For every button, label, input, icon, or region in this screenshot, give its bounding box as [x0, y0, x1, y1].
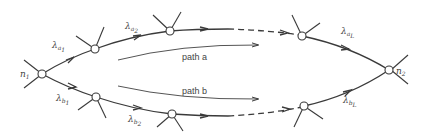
edge-b-dashed [228, 107, 302, 116]
label-n2: n2 [396, 66, 406, 77]
node-n2 [385, 66, 393, 74]
path-a-label: path a [182, 52, 207, 62]
node-a2 [166, 27, 174, 35]
label-n1: n1 [20, 69, 30, 80]
label-lambda-a2: λa2 [124, 21, 138, 34]
arrow-a1-icon [66, 57, 74, 63]
label-lambda-a1: λa1 [51, 40, 65, 53]
label-lambda-bL: λbL [342, 95, 357, 108]
node-n1 [38, 70, 46, 78]
node-a3 [298, 32, 306, 40]
edge-a2 [95, 31, 170, 49]
edge-aL [302, 36, 389, 70]
arrow-b4-icon [282, 107, 290, 112]
edge-b1 [42, 74, 96, 97]
arrow-b1-icon [68, 83, 76, 89]
node-spokes [24, 12, 408, 131]
node-b1 [92, 93, 100, 101]
path-b-label: path b [182, 86, 207, 96]
node-a1 [91, 45, 99, 53]
label-lambda-aL: λaL [340, 26, 354, 39]
node-b3 [300, 102, 308, 110]
edge-a1 [42, 49, 95, 74]
edge-a-dashed [228, 29, 300, 35]
edge-a3 [170, 29, 228, 31]
nodes [38, 27, 393, 118]
path-diagram: path a path b n1 n2 λa1 λa2 λaL λb1 λb2 … [0, 0, 429, 140]
label-lambda-b2: λb2 [127, 114, 142, 127]
node-b2 [168, 110, 176, 118]
label-lambda-b1: λb1 [55, 93, 69, 106]
